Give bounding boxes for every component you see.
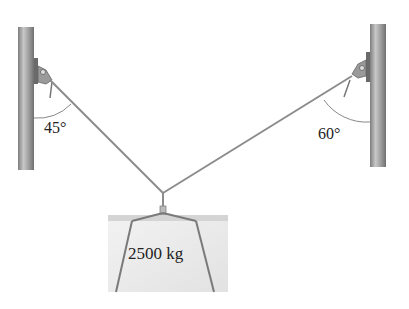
left-angle-arc [34,104,71,118]
right-pole [344,24,386,167]
tension-diagram [0,0,409,309]
left-cable [50,80,163,193]
mass-label: 2500 kg [128,244,183,264]
left-pole [18,27,52,170]
left-angle-label: 45° [44,119,66,137]
right-angle-label: 60° [318,125,340,143]
right-angle-arc [324,100,370,122]
hook [160,193,166,215]
